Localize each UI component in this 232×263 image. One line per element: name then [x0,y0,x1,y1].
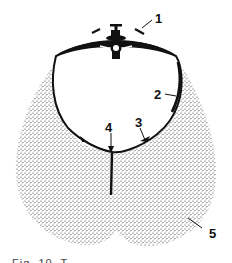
label-3: 3 [135,116,142,129]
left-dash [92,29,100,33]
midline-fissure [111,153,112,195]
diagram-figure [0,0,232,263]
label-5: 5 [209,227,216,240]
label-4: 4 [105,121,112,134]
central-cap [106,35,126,41]
t-stem [115,25,118,35]
central-base [112,52,120,59]
leader-line-1 [142,20,152,28]
right-dash [135,29,144,34]
label-2: 2 [154,88,161,101]
central-lumen [113,45,119,51]
label-1: 1 [155,12,162,25]
figure-caption: Fig. 10. T [12,256,232,263]
